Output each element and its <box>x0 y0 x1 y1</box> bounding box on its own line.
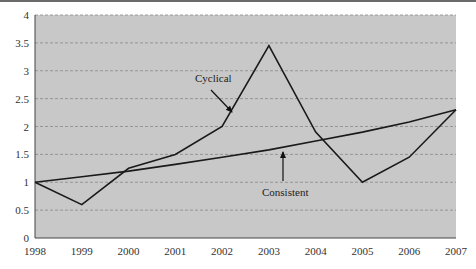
x-tick-label: 2000 <box>118 245 141 257</box>
x-tick-label: 1998 <box>24 245 47 257</box>
y-tick-label: 1 <box>24 176 30 188</box>
y-tick-label: 4 <box>24 9 30 21</box>
x-tick-label: 2003 <box>258 245 281 257</box>
x-tick-label: 1999 <box>71 245 94 257</box>
x-tick-label: 2007 <box>445 245 468 257</box>
line-chart: 00.511.522.533.5419981999200020012002200… <box>0 0 476 269</box>
x-tick-label: 2006 <box>398 245 421 257</box>
y-tick-label: 3 <box>24 65 30 77</box>
annotation-cyclical: Cyclical <box>195 72 232 84</box>
x-tick-label: 2005 <box>351 245 374 257</box>
y-tick-label: 2 <box>24 121 30 133</box>
y-tick-label: 1.5 <box>15 148 29 160</box>
y-tick-label: 3.5 <box>15 37 29 49</box>
x-tick-label: 2004 <box>305 245 328 257</box>
y-tick-label: 2.5 <box>15 93 29 105</box>
x-tick-label: 2001 <box>164 245 186 257</box>
y-tick-label: 0 <box>24 232 30 244</box>
y-tick-label: 0.5 <box>15 204 29 216</box>
x-tick-label: 2002 <box>211 245 233 257</box>
annotation-consistent: Consistent <box>262 186 308 198</box>
